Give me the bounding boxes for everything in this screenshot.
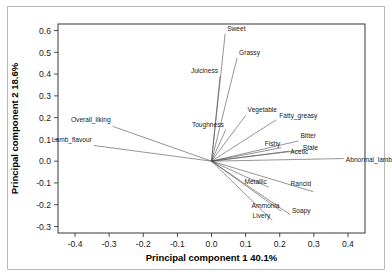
y-axis-title: Principal component 2 18.6% — [9, 62, 20, 194]
loading-label: Bitter — [300, 132, 316, 139]
loading-label: Toughness — [192, 121, 225, 129]
loading-label: Fatty_greasy — [279, 112, 318, 120]
loading-label: Metallic — [244, 178, 267, 185]
y-tick-label: 0.5 — [39, 48, 51, 58]
loading-label: Stale — [303, 144, 318, 151]
y-tick-label: 0.4 — [39, 69, 51, 79]
y-tick-label: -0.1 — [36, 178, 51, 188]
y-tick-label: 0.0 — [39, 156, 51, 166]
loading-label: Vegetable — [248, 106, 278, 114]
loading-label: Soapy — [292, 207, 311, 215]
plot-frame — [58, 24, 365, 233]
loading-label: Sweet — [227, 25, 245, 32]
x-tick-label: -0.4 — [68, 239, 83, 249]
pca-biplot-svg: -0.4-0.3-0.2-0.10.00.10.20.30.40.60.50.4… — [0, 0, 392, 277]
x-tick-label: -0.1 — [170, 239, 185, 249]
x-tick-label: 0.3 — [308, 239, 320, 249]
y-tick-label: -0.3 — [36, 222, 51, 232]
loading-label: Abnormal_lamb — [346, 156, 392, 164]
loading-label: Juiciness — [191, 67, 219, 74]
y-tick-label: 0.6 — [39, 26, 51, 36]
x-tick-label: 0.0 — [206, 239, 218, 249]
y-tick-label: -0.2 — [36, 200, 51, 210]
loading-label: Livery — [253, 212, 271, 220]
pca-biplot-figure: -0.4-0.3-0.2-0.10.00.10.20.30.40.60.50.4… — [0, 0, 392, 277]
x-axis-title: Principal component 1 40.1% — [146, 252, 278, 263]
x-tick-label: -0.3 — [102, 239, 117, 249]
loading-vector — [94, 145, 212, 161]
loading-label: Lamb_flavour — [52, 136, 93, 144]
loading-label: Grassy — [239, 49, 261, 57]
loading-label: Overall_liking — [71, 116, 111, 124]
loading-vector — [113, 126, 212, 161]
x-tick-label: 0.1 — [240, 239, 252, 249]
x-tick-label: 0.2 — [274, 239, 286, 249]
y-tick-label: 0.1 — [39, 135, 51, 145]
x-tick-label: -0.2 — [136, 239, 151, 249]
loading-vector — [212, 76, 221, 161]
x-tick-label: 0.4 — [342, 239, 354, 249]
loading-label: Fishy — [265, 140, 281, 148]
loading-label: Ammonia — [252, 202, 280, 209]
y-tick-label: 0.2 — [39, 113, 51, 123]
y-tick-label: 0.3 — [39, 91, 51, 101]
loading-label: Rancid — [291, 180, 312, 187]
